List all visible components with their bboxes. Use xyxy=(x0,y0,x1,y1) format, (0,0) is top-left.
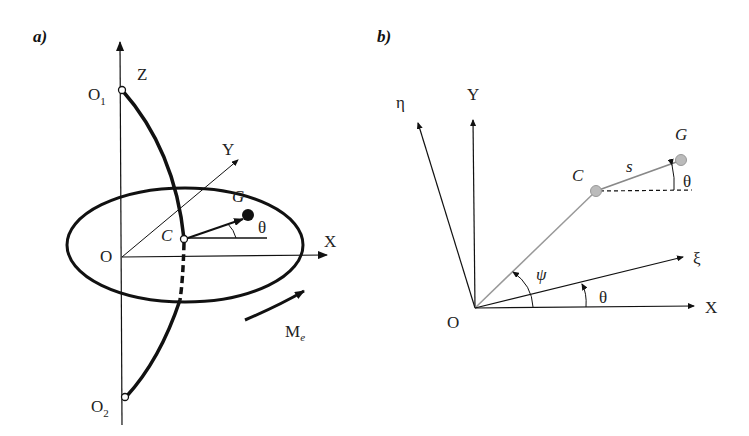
xi-axis-label: ξ xyxy=(693,249,701,268)
origin-label-b: O xyxy=(447,313,459,332)
x-axis-label-b: X xyxy=(705,298,717,317)
panel-a-label: a) xyxy=(33,27,47,46)
s-label: s xyxy=(626,157,633,176)
diagram-canvas: a) Z Y X O O1 O2 G θ C xyxy=(0,0,749,436)
vector-cg xyxy=(185,219,243,239)
panel-b: b) η Y θ s C G ξ X O ψ θ xyxy=(377,27,717,332)
theta-label-g: θ xyxy=(683,172,691,191)
point-c-a xyxy=(181,236,188,243)
point-g-b xyxy=(676,155,687,166)
g-label-b: G xyxy=(675,125,687,144)
origin-label-a: O xyxy=(100,247,112,266)
y-axis-b xyxy=(473,120,475,308)
line-oc xyxy=(475,191,596,308)
theta-label-xi: θ xyxy=(599,288,607,307)
x-axis-label: X xyxy=(324,232,336,251)
z-axis xyxy=(120,42,122,425)
point-c-b xyxy=(591,186,602,197)
moment-arrow xyxy=(245,291,304,320)
point-o2 xyxy=(122,394,129,401)
reference-line-b xyxy=(600,190,692,191)
y-axis-label: Y xyxy=(222,140,234,159)
psi-label: ψ xyxy=(536,265,547,284)
shaft-upper xyxy=(122,90,184,239)
moment-label: Me xyxy=(285,322,305,343)
panel-b-label: b) xyxy=(377,27,391,46)
panel-a: a) Z Y X O O1 O2 G θ C xyxy=(33,27,336,425)
o1-label: O1 xyxy=(88,85,106,107)
z-axis-label: Z xyxy=(137,65,147,84)
theta-arc-xi xyxy=(582,284,586,307)
eta-axis-label: η xyxy=(396,93,405,112)
c-label-b: C xyxy=(572,166,584,185)
o2-label: O2 xyxy=(91,397,109,419)
eta-axis xyxy=(418,123,475,308)
y-axis-label-b: Y xyxy=(467,85,479,104)
x-axis xyxy=(122,255,327,257)
g-label-a: G xyxy=(232,187,244,206)
theta-label-a: θ xyxy=(258,218,266,237)
theta-arc-g xyxy=(672,165,674,190)
xi-axis xyxy=(475,257,683,308)
c-label-a: C xyxy=(161,226,173,245)
psi-arc xyxy=(513,272,533,307)
x-axis-b xyxy=(475,306,694,308)
line-cg xyxy=(596,160,682,191)
shaft-hidden xyxy=(180,243,184,300)
shaft-lower xyxy=(126,300,180,397)
point-g-mass xyxy=(242,209,254,221)
theta-arc-a xyxy=(228,224,236,238)
point-o1 xyxy=(119,87,126,94)
